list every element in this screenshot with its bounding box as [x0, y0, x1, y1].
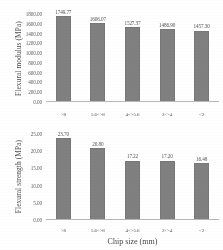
x-category-label: 5.6<>8 — [82, 112, 113, 117]
bar-group-strength: 23.7020.8017.2217.2016.48 — [46, 134, 219, 220]
bar-value-label: 17.22 — [127, 153, 138, 159]
x-category-label: 5.6<>8 — [82, 228, 113, 233]
bar — [194, 163, 209, 220]
plot-area-modulus: 0.00200.00400.00600.00800.001000.001200.… — [46, 14, 219, 102]
y-tick-label: 0.00 — [33, 217, 42, 223]
bar — [56, 138, 71, 220]
plot-area-strength: 0.005.0010.0015.0020.0025.00 23.7020.801… — [46, 134, 219, 220]
x-axis-categories-modulus: >85.6<>84<>5.62<>4<2 — [46, 112, 219, 117]
y-tick-label: 5.00 — [33, 200, 42, 206]
bar-item: 1457.30 — [186, 14, 217, 102]
x-axis-line-modulus — [46, 101, 219, 102]
bar-item: 1749.77 — [48, 14, 79, 102]
bar — [90, 148, 105, 220]
bar-item: 1606.07 — [82, 14, 113, 102]
bar-item: 17.20 — [152, 134, 183, 220]
bar — [125, 27, 140, 102]
y-tick-label: 1600.00 — [26, 21, 42, 27]
bar-item: 16.48 — [186, 134, 217, 220]
bar-value-label: 1527.37 — [124, 20, 140, 26]
figure-container: Flexural modulus (MPa) 0.00200.00400.006… — [0, 0, 223, 250]
bar — [160, 29, 175, 102]
y-tick-label: 200.00 — [28, 89, 42, 95]
y-tick-label: 800.00 — [28, 60, 42, 66]
x-category-label: <2 — [186, 112, 217, 117]
x-category-label: >8 — [48, 228, 79, 233]
x-category-label: 2<>4 — [152, 112, 183, 117]
y-tick-label: 25.00 — [31, 131, 42, 137]
y-tick-label: 1400.00 — [26, 31, 42, 37]
bar-item: 17.22 — [117, 134, 148, 220]
x-category-label: >8 — [48, 112, 79, 117]
bar — [125, 161, 140, 220]
bar-value-label: 1486.90 — [159, 22, 175, 28]
bar-value-label: 1457.30 — [194, 23, 210, 29]
chart-flexural-modulus: Flexural modulus (MPa) 0.00200.00400.006… — [0, 6, 223, 122]
bar-value-label: 17.20 — [161, 153, 172, 159]
bar-value-label: 23.70 — [58, 131, 69, 137]
y-tick-label: 20.00 — [31, 148, 42, 154]
bar-item: 20.80 — [82, 134, 113, 220]
x-category-label: 4<>5.6 — [117, 228, 148, 233]
y-tick-label: 10.00 — [31, 183, 42, 189]
y-tick-label: 1000.00 — [26, 50, 42, 56]
bar-value-label: 1749.77 — [55, 9, 71, 15]
bar-item: 23.70 — [48, 134, 79, 220]
x-axis-categories-strength: >85.6<>84<>5.62<>4<2 — [46, 228, 219, 233]
bar-value-label: 1606.07 — [90, 16, 106, 22]
y-tick-label: 1200.00 — [26, 40, 42, 46]
y-axis-ticks-strength: 0.005.0010.0015.0020.0025.00 — [2, 134, 44, 220]
y-axis-ticks-modulus: 0.00200.00400.00600.00800.001000.001200.… — [2, 14, 44, 102]
bar — [56, 16, 71, 102]
bar-item: 1527.37 — [117, 14, 148, 102]
x-axis-title: Chip size (mm) — [46, 237, 219, 246]
x-category-label: 2<>4 — [152, 228, 183, 233]
x-axis-line-strength — [46, 219, 219, 220]
bar — [90, 23, 105, 102]
y-tick-label: 400.00 — [28, 79, 42, 85]
bar-group-modulus: 1749.771606.071527.371486.901457.30 — [46, 14, 219, 102]
x-category-label: <2 — [186, 228, 217, 233]
y-tick-label: 1800.00 — [26, 11, 42, 17]
y-tick-label: 15.00 — [31, 165, 42, 171]
bar — [160, 161, 175, 220]
chart-flexural-strength: Flexural strength (MPa) 0.005.0010.0015.… — [0, 126, 223, 246]
bar-value-label: 20.80 — [92, 141, 103, 147]
y-tick-label: 0.00 — [33, 99, 42, 105]
y-tick-label: 600.00 — [28, 70, 42, 76]
bar — [194, 31, 209, 102]
bar-value-label: 16.48 — [196, 156, 207, 162]
bar-item: 1486.90 — [152, 14, 183, 102]
x-category-label: 4<>5.6 — [117, 112, 148, 117]
